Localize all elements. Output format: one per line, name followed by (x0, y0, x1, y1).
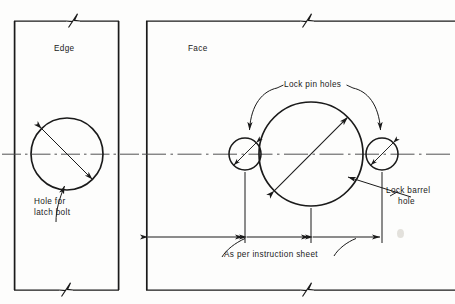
as-per-instruction-sheet-label: As per instruction sheet (224, 250, 318, 261)
break-symbol-edge-bottom (59, 283, 73, 297)
as-per-instruction-sheet-leader-right (334, 239, 356, 257)
edge-view-label: Edge (54, 44, 75, 55)
technical-drawing-canvas: Edge Face Hole for latch bolt Lock pin h… (0, 0, 455, 304)
lock-pin-holes-label: Lock pin holes (284, 80, 341, 91)
lock-pin-holes-leader-left (250, 88, 278, 130)
lock-barrel-hole-label-line2: hole (398, 197, 415, 208)
break-symbol-edge-top (66, 14, 80, 28)
face-view-label: Face (188, 44, 208, 55)
lock-barrel-hole-label-line1: Lock barrel (386, 186, 430, 197)
paper-speck (397, 229, 404, 238)
break-symbol-face-top (300, 14, 314, 28)
dimension-extension-lines (245, 172, 382, 243)
break-symbol-face-bottom (300, 283, 314, 297)
lock-pin-holes-leader-right (353, 88, 381, 130)
hole-for-latch-bolt-label-line1: Hole for (34, 197, 65, 208)
hole-for-latch-bolt-label-line2: latch bolt (34, 208, 70, 219)
